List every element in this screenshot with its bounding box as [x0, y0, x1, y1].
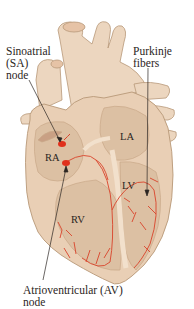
sa-line-2: (SA) [6, 57, 51, 69]
label-la: LA [120, 131, 134, 142]
sa-line-3: node [6, 69, 51, 81]
label-ra: RA [45, 152, 60, 163]
av-line-1: Atrioventricular (AV) [23, 284, 123, 296]
purkinje-line-2: fibers [133, 57, 172, 69]
heart-conduction-diagram: LA RA LV RV Sinoatrial (SA) node Purkinj… [0, 0, 194, 309]
label-purkinje-fibers: Purkinje fibers [133, 45, 172, 69]
label-rv: RV [71, 214, 85, 225]
label-sa-node: Sinoatrial (SA) node [6, 45, 51, 81]
label-lv: LV [122, 180, 135, 191]
sa-line-1: Sinoatrial [6, 45, 51, 57]
av-line-2: node [23, 296, 123, 308]
purkinje-line-1: Purkinje [133, 45, 172, 57]
sa-node [58, 141, 66, 147]
label-av-node: Atrioventricular (AV) node [23, 284, 123, 308]
